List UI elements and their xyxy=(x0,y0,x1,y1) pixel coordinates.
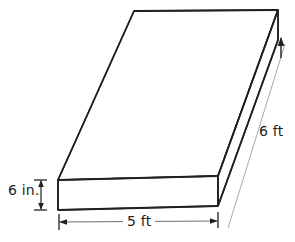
width-dimension-label: 5 ft xyxy=(123,214,155,228)
geometry-figure: 6 in. 5 ft 6 ft xyxy=(0,0,295,242)
height-dim-arrow-down xyxy=(38,203,44,210)
width-dim-arrow-right xyxy=(210,218,218,223)
width-dim-arrow-left xyxy=(59,219,67,224)
prism-body xyxy=(58,10,278,210)
height-dimension-label: 6 in. xyxy=(8,183,40,197)
prism-top-back-edge xyxy=(134,10,278,11)
depth-dimension-label: 6 ft xyxy=(259,124,283,138)
prism-drawing xyxy=(0,0,295,242)
prism-front-face xyxy=(58,176,218,210)
prism-top-face xyxy=(58,10,278,180)
